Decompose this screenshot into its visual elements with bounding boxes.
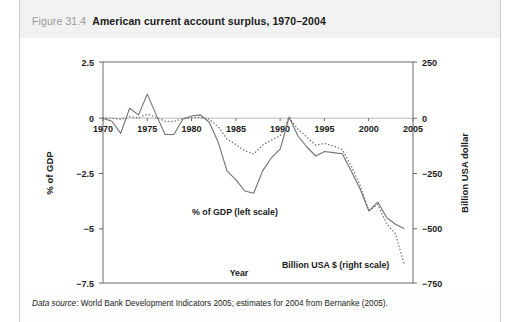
line-chart: 2.5 0 −2.5 −5 −7.5 250 0 −250 −500 −750 … — [20, 38, 500, 288]
left-tick-label: 0 — [89, 114, 94, 124]
figure-page: Figure 31.4American current account surp… — [0, 0, 515, 322]
x-axis-tick-labels: 1970 1975 1980 1985 1990 1995 2000 2005 — [93, 124, 423, 134]
figure-caption: Figure 31.4American current account surp… — [32, 11, 326, 29]
x-tick-label: 1970 — [93, 124, 113, 134]
chart-canvas: 2.5 0 −2.5 −5 −7.5 250 0 −250 −500 −750 … — [20, 38, 500, 288]
right-axis-tick-labels: 250 0 −250 −500 −750 — [422, 58, 442, 289]
left-tick-label: −7.5 — [76, 279, 94, 289]
page-left-edge — [0, 0, 20, 322]
left-axis-tick-labels: 2.5 0 −2.5 −5 −7.5 — [76, 58, 94, 289]
source-note-text: : World Bank Development Indicators 2005… — [76, 299, 388, 308]
right-axis-ticks — [413, 62, 417, 283]
source-note-lead: Data source — [32, 299, 76, 308]
x-tick-label: 2005 — [403, 124, 423, 134]
x-tick-label: 1980 — [182, 124, 202, 134]
right-tick-label: −500 — [422, 224, 442, 234]
series-billion-usd — [103, 114, 404, 265]
right-tick-label: 0 — [422, 114, 427, 124]
left-tick-label: −2.5 — [76, 169, 94, 179]
figure-title: American current account surplus, 1970–2… — [92, 15, 326, 27]
x-tick-label: 2000 — [359, 124, 379, 134]
x-axis-title: Year — [230, 268, 249, 278]
right-tick-label: 250 — [422, 58, 437, 68]
figure-number: Figure 31.4 — [32, 15, 86, 27]
right-tick-label: −250 — [422, 169, 442, 179]
right-tick-label: −750 — [422, 279, 442, 289]
annotation-billion-usd: Billion USA $ (right scale) — [282, 260, 389, 270]
right-axis-title: Billion USA dollar — [459, 133, 470, 213]
x-axis-ticks — [103, 118, 413, 121]
annotation-percent-of-gdp: % of GDP (left scale) — [192, 207, 278, 217]
source-note: Data source: World Bank Development Indi… — [32, 299, 388, 308]
x-tick-label: 1985 — [226, 124, 246, 134]
left-tick-label: 2.5 — [81, 58, 94, 68]
page-right-edge — [500, 0, 515, 322]
left-axis-ticks — [99, 62, 103, 283]
plot-frame — [103, 62, 413, 283]
x-tick-label: 1975 — [137, 124, 157, 134]
x-tick-label: 1995 — [314, 124, 334, 134]
left-axis-title: % of GDP — [44, 151, 55, 195]
left-tick-label: −5 — [84, 224, 94, 234]
